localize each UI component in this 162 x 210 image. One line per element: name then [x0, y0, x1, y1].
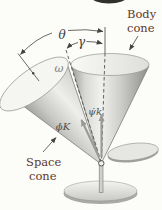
body-cone-rim	[71, 54, 149, 76]
body-cone-caption-line1: Body	[127, 7, 157, 21]
space-cone-caption-line1: Space	[26, 155, 62, 169]
gyroscopic-motion-figure: θ γ ω ϕ̇K ψ̇k Body cone Space cone	[0, 0, 162, 210]
spin-vector-label: ψ̇k	[88, 106, 102, 117]
body-cone-caption-line2: cone	[127, 21, 155, 35]
omega-label: ω	[55, 62, 64, 75]
stem	[99, 166, 103, 193]
gamma-label: γ	[78, 35, 86, 49]
axis-rim-node	[32, 72, 34, 74]
pivot-ball	[99, 161, 104, 166]
theta-label: θ	[58, 28, 66, 42]
figure-svg: θ γ ω ϕ̇K ψ̇k Body cone Space cone	[0, 0, 162, 210]
space-cone-caption: Space cone	[26, 155, 62, 183]
space-cone-caption-line2: cone	[29, 169, 57, 183]
body-cone-caption: Body cone	[127, 7, 157, 35]
precession-vector-label: ϕ̇K	[56, 121, 71, 132]
